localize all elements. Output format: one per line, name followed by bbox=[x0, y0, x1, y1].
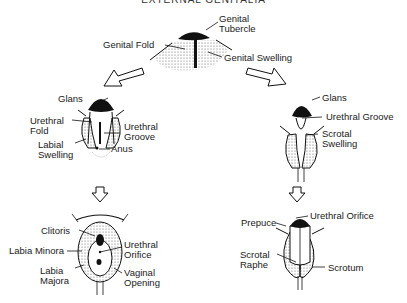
label-anus: Anus bbox=[111, 144, 133, 154]
arrow-down-male bbox=[289, 187, 305, 202]
label-genital-swelling: Genital Swelling bbox=[224, 53, 292, 63]
label-urethral-orifice-female: Urethral Orifice bbox=[124, 240, 158, 260]
arrow-down-female bbox=[92, 187, 108, 202]
label-urethral-orifice-male: Urethral Orifice bbox=[310, 211, 374, 221]
label-genital-fold: Genital Fold bbox=[103, 40, 154, 50]
label-glans-female: Glans bbox=[58, 94, 83, 104]
arrow-to-female bbox=[104, 68, 144, 86]
label-labia-minora: Labia Minora bbox=[9, 246, 64, 256]
label-urethral-groove-female: Urethral Groove bbox=[124, 122, 158, 142]
label-vaginal-opening: Vaginal Opening bbox=[124, 268, 160, 288]
label-labial-swelling: Labial Swelling bbox=[38, 140, 73, 160]
male-final-drawing bbox=[276, 219, 324, 290]
label-glans-male: Glans bbox=[322, 93, 347, 103]
female-final-drawing bbox=[72, 214, 128, 295]
indifferent-stage-drawing bbox=[150, 32, 232, 70]
label-scrotal-swelling: Scrotal Swelling bbox=[322, 129, 357, 149]
label-labia-majora: Labia Majora bbox=[40, 266, 69, 286]
label-genital-tubercle: Genital Tubercle bbox=[219, 14, 256, 34]
genital-tubercle-shape bbox=[178, 32, 210, 40]
label-clitoris: Clitoris bbox=[41, 226, 70, 236]
label-urethral-groove-male: Urethral Groove bbox=[326, 112, 394, 122]
label-prepuce: Prepuce bbox=[241, 218, 276, 228]
arrow-to-male bbox=[246, 68, 286, 86]
label-urethral-fold: Urethral Fold bbox=[30, 116, 64, 136]
label-scrotum: Scrotum bbox=[328, 263, 363, 273]
label-scrotal-raphe: Scrotal Raphe bbox=[240, 250, 270, 270]
